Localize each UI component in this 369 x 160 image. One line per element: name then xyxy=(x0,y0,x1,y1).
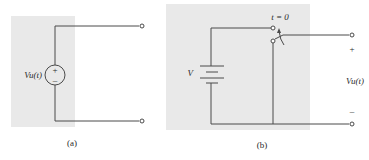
terminal-b-top xyxy=(350,33,354,37)
panel-a xyxy=(11,16,75,127)
caption-a: (a) xyxy=(67,138,77,148)
source-plus-sign: + xyxy=(52,65,57,75)
circuit-diagram: + – Vu(t) (a) V t = 0 xyxy=(0,0,369,160)
switch-time-label: t = 0 xyxy=(271,12,289,22)
output-label: Vu(t) xyxy=(346,76,364,86)
caption-b: (b) xyxy=(257,140,268,150)
circuit-a: + – Vu(t) (a) xyxy=(11,16,144,148)
terminal-a-bottom xyxy=(140,119,144,123)
output-plus-sign: + xyxy=(349,44,354,54)
source-label: Vu(t) xyxy=(24,70,42,80)
output-minus-sign: – xyxy=(349,106,355,116)
source-minus-sign: – xyxy=(52,75,58,85)
circuit-b: V t = 0 + Vu(t) – (b) xyxy=(166,4,364,150)
terminal-b-bottom xyxy=(350,122,354,126)
panel-b xyxy=(166,4,310,130)
terminal-a-top xyxy=(140,24,144,28)
